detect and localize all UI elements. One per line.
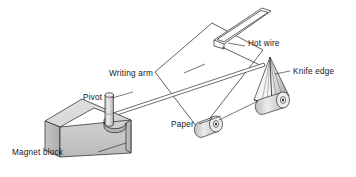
pivot-post-body [105,95,113,126]
paper-sheet [155,23,263,131]
magnet-block-right-face [126,120,131,153]
pivot-post-top [105,93,113,97]
roller-rear-axle [282,99,284,102]
label-magnet-block: Magnet block [12,148,64,157]
label-writing-arm: Writing arm [109,69,153,78]
hot-wire-inner [217,11,268,42]
label-knife-edge: Knife edge [293,67,334,76]
roller-front-axle [215,123,217,126]
roller-connector-line [219,101,258,120]
paper-surface [155,23,263,131]
apparatus-diagram: Writing arm Pivot Magnet block Paper Hot… [0,0,356,177]
leader-pivot [112,92,133,98]
label-hot-wire: Hot wire [248,39,280,48]
magnet-block-front-face [60,120,131,157]
figure-canvas: Writing arm Pivot Magnet block Paper Hot… [0,0,356,177]
label-paper: Paper [171,120,194,129]
label-pivot: Pivot [83,93,103,102]
